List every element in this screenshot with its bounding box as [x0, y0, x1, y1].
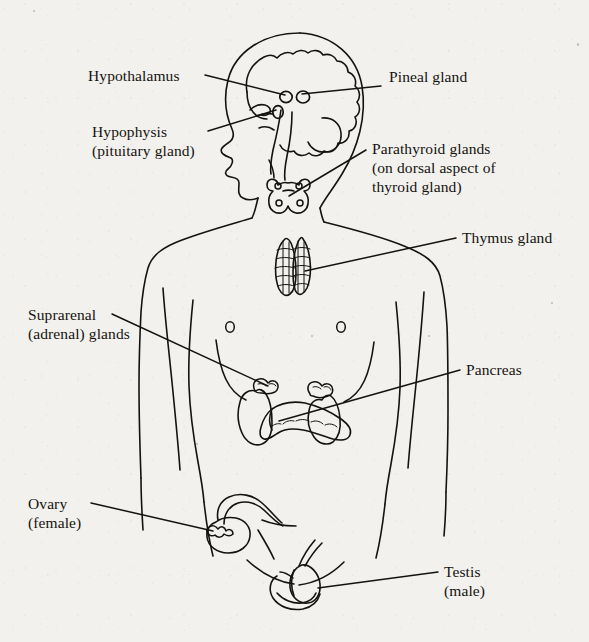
leader-ovary: [91, 503, 213, 531]
leader-testis: [318, 572, 438, 588]
label-pineal-gland: Pineal gland: [389, 67, 467, 86]
leader-hypothalamus: [205, 75, 285, 95]
body-outline: [139, 33, 448, 585]
hypophysis-marker: [273, 106, 283, 119]
paper-speck: [311, 335, 313, 337]
leader-suprarenal-glands: [112, 314, 268, 386]
testis-organ: [270, 540, 322, 610]
right-nipple: [337, 322, 346, 332]
leader-thymus-gland: [305, 238, 456, 271]
paper-speck: [196, 443, 198, 445]
paper-speck: [428, 335, 430, 337]
label-thymus-gland: Thymus gland: [462, 228, 552, 247]
label-ovary-female: Ovary (female): [28, 494, 81, 532]
uterus-ovary: [207, 495, 296, 559]
pancreas-organ: [260, 402, 351, 440]
label-hypophysis: Hypophysis (pituitary gland): [92, 122, 195, 160]
left-nipple: [226, 322, 235, 332]
abdominal-organs: [238, 379, 350, 445]
paper-speck: [551, 302, 553, 304]
hypothalamus-marker: [280, 91, 292, 102]
label-testis-male: Testis (male): [444, 562, 485, 600]
paper-speck: [577, 43, 579, 46]
leader-hypophysis: [208, 110, 276, 131]
brain: [246, 50, 359, 180]
leader-pineal-gland: [302, 86, 381, 94]
label-pancreas: Pancreas: [466, 360, 522, 379]
leader-pancreas: [279, 370, 460, 421]
paper-speck: [33, 10, 35, 12]
thymus: [275, 238, 311, 296]
endocrine-glands-figure: Hypothalamus Pineal gland Hypophysis (pi…: [0, 0, 589, 642]
label-hypothalamus: Hypothalamus: [88, 66, 180, 85]
label-parathyroid-glands: Parathyroid glands (on dorsal aspect of …: [372, 139, 496, 196]
leader-parathyroid-glands: [289, 150, 366, 196]
label-suprarenal-adrenal-glands: Suprarenal (adrenal) glands: [28, 305, 130, 343]
